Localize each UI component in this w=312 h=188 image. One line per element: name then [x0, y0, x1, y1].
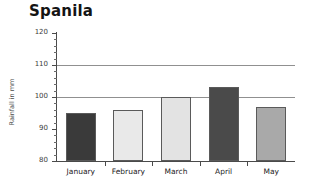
y-tick-minor — [54, 142, 57, 143]
y-tick-label: 110 — [18, 60, 48, 68]
x-tick-label: March — [152, 167, 200, 176]
y-tick-major — [52, 97, 57, 98]
x-tick — [200, 162, 201, 166]
bar — [66, 113, 96, 161]
plot-area — [57, 33, 295, 161]
bar — [256, 107, 286, 161]
y-tick-major — [52, 129, 57, 130]
bar — [161, 97, 191, 161]
y-tick-label: 80 — [18, 156, 48, 164]
x-tick-label: April — [200, 167, 248, 176]
y-tick-minor — [54, 123, 57, 124]
y-tick-label: 120 — [18, 28, 48, 36]
y-tick-major — [52, 161, 57, 162]
y-tick-minor — [54, 84, 57, 85]
y-tick-major — [52, 33, 57, 34]
y-tick-minor — [54, 110, 57, 111]
x-tick — [105, 162, 106, 166]
bar-chart: Spanila Rainfall in mm 8090100110120 Jan… — [0, 0, 312, 188]
y-tick-label: 90 — [18, 124, 48, 132]
bar — [113, 110, 143, 161]
y-tick-minor — [54, 116, 57, 117]
y-tick-minor — [54, 148, 57, 149]
bar — [209, 87, 239, 161]
y-tick-minor — [54, 59, 57, 60]
y-tick-minor — [54, 52, 57, 53]
y-tick-minor — [54, 135, 57, 136]
y-tick-minor — [54, 103, 57, 104]
x-tick — [152, 162, 153, 166]
x-tick-label: February — [105, 167, 153, 176]
y-tick-minor — [54, 91, 57, 92]
chart-title: Spanila — [29, 2, 93, 20]
y-axis-label: Rainfall in mm — [8, 57, 16, 147]
x-tick-label: May — [247, 167, 295, 176]
x-tick — [247, 162, 248, 166]
y-tick-major — [52, 65, 57, 66]
y-tick-minor — [54, 71, 57, 72]
x-axis-line — [56, 161, 295, 162]
y-tick-minor — [54, 46, 57, 47]
y-tick-label: 100 — [18, 92, 48, 100]
gridline — [57, 65, 295, 66]
y-tick-minor — [54, 155, 57, 156]
y-tick-minor — [54, 39, 57, 40]
x-tick-label: January — [57, 167, 105, 176]
y-tick-minor — [54, 78, 57, 79]
